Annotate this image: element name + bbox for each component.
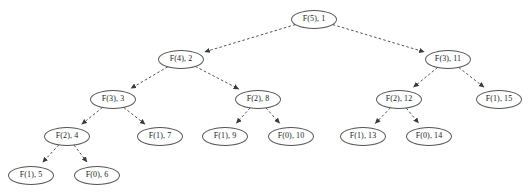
tree-node-n10[interactable]: F(0), 10 — [268, 127, 314, 146]
tree-node-label: F(1), 7 — [149, 132, 171, 140]
tree-node-label: F(0), 14 — [416, 132, 443, 140]
tree-node-label: F(1), 9 — [214, 132, 236, 140]
tree-node-label: F(1), 5 — [20, 171, 42, 179]
tree-node-n1[interactable]: F(5), 1 — [291, 10, 337, 29]
tree-node-label: F(2), 4 — [56, 132, 78, 140]
node-layer: F(5), 1F(4), 2F(3), 11F(3), 3F(2), 8F(2)… — [0, 0, 529, 195]
tree-node-n12[interactable]: F(2), 12 — [376, 90, 422, 109]
tree-node-label: F(5), 1 — [303, 15, 325, 23]
tree-node-label: F(3), 11 — [435, 55, 461, 63]
tree-node-label: F(2), 12 — [386, 95, 413, 103]
tree-node-n15[interactable]: F(1), 15 — [476, 90, 522, 109]
tree-node-label: F(0), 6 — [86, 171, 108, 179]
tree-node-n5[interactable]: F(1), 5 — [8, 166, 54, 185]
tree-node-n2[interactable]: F(4), 2 — [158, 50, 204, 69]
tree-node-label: F(4), 2 — [170, 55, 192, 63]
tree-node-label: F(1), 13 — [350, 132, 377, 140]
tree-node-n3[interactable]: F(3), 3 — [90, 90, 136, 109]
tree-node-n8[interactable]: F(2), 8 — [235, 90, 281, 109]
tree-node-label: F(2), 8 — [247, 95, 269, 103]
tree-node-n6[interactable]: F(0), 6 — [74, 166, 120, 185]
tree-node-label: F(3), 3 — [102, 95, 124, 103]
tree-node-n7[interactable]: F(1), 7 — [137, 127, 183, 146]
tree-node-n4[interactable]: F(2), 4 — [44, 127, 90, 146]
tree-node-n9[interactable]: F(1), 9 — [202, 127, 248, 146]
tree-node-label: F(0), 10 — [278, 132, 305, 140]
tree-node-n13[interactable]: F(1), 13 — [340, 127, 386, 146]
fibonacci-recursion-tree-diagram: F(5), 1F(4), 2F(3), 11F(3), 3F(2), 8F(2)… — [0, 0, 529, 195]
tree-node-label: F(1), 15 — [486, 95, 513, 103]
tree-node-n14[interactable]: F(0), 14 — [406, 127, 452, 146]
tree-node-n11[interactable]: F(3), 11 — [425, 50, 471, 69]
